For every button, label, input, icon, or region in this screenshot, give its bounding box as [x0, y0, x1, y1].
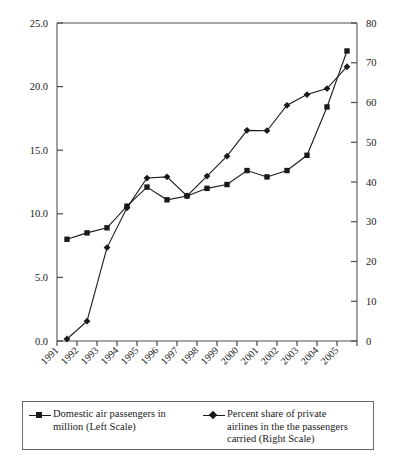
data-point-marker: [324, 104, 329, 109]
left-axis-tick-label: 10.0: [30, 208, 48, 219]
data-series-layer: [64, 48, 351, 342]
x-axis-tick-label: 1997: [158, 345, 180, 367]
data-point-marker: [104, 244, 111, 251]
data-point-marker: [144, 175, 151, 182]
legend-line-1: Domestic air passengers in: [53, 408, 166, 419]
x-axis-tick-label: 1991: [38, 345, 60, 367]
data-point-marker: [264, 174, 269, 179]
right-axis-tick-label: 10: [366, 296, 377, 307]
chart-plot-area: 0.05.010.015.020.025.0 01020304050607080…: [0, 0, 399, 400]
right-axis-tick-label: 70: [366, 57, 377, 68]
series-1-square: [64, 48, 349, 242]
left-axis-tick-label: 0.0: [35, 336, 48, 347]
x-axis-tick-label: 2002: [258, 345, 280, 367]
legend-label-domestic-passengers: Domestic air passengers in million (Left…: [53, 408, 166, 433]
x-axis-tick-label: 2004: [298, 345, 320, 367]
left-axis-tick-label: 25.0: [30, 18, 48, 29]
x-axis-tick-label: 1992: [58, 345, 80, 367]
right-axis-tick-label: 0: [366, 336, 371, 347]
legend-line-2: airlines in the the passengers: [227, 421, 348, 432]
left-axis-tick-label: 5.0: [35, 272, 48, 283]
data-point-marker: [204, 186, 209, 191]
data-point-marker: [224, 182, 229, 187]
right-axis-ticks: 01020304050607080: [351, 18, 377, 347]
legend-line-3: carried (Right Scale): [227, 433, 314, 444]
legend-line-2: million (Left Scale): [53, 421, 136, 432]
series-line: [67, 51, 347, 239]
left-axis-ticks: 0.05.010.015.020.025.0: [30, 18, 63, 347]
legend-marker-square-icon: [29, 409, 53, 422]
data-point-marker: [304, 153, 309, 158]
data-point-marker: [144, 184, 149, 189]
x-axis-tick-label: 2003: [278, 345, 300, 367]
legend-label-private-share: Percent share of private airlines in the…: [227, 408, 348, 446]
x-axis-tick-label: 1998: [178, 345, 200, 367]
x-axis-tick-label: 1999: [198, 345, 220, 367]
series-line: [67, 67, 347, 339]
x-axis-tick-label: 2001: [238, 345, 260, 367]
x-axis-tick-label: 1996: [138, 345, 160, 367]
right-axis-tick-label: 60: [366, 97, 377, 108]
data-point-marker: [244, 168, 249, 173]
x-axis-tick-label: 1995: [118, 345, 140, 367]
data-point-marker: [84, 230, 89, 235]
chart-legend: Domestic air passengers in million (Left…: [22, 401, 374, 450]
right-axis-tick-label: 50: [366, 137, 377, 148]
left-axis-tick-label: 20.0: [30, 81, 48, 92]
right-axis-tick-label: 20: [366, 256, 377, 267]
series-2-diamond: [64, 63, 351, 342]
right-axis-tick-label: 40: [366, 177, 377, 188]
data-point-marker: [304, 91, 311, 98]
x-axis-tick-label: 2000: [218, 345, 240, 367]
right-axis-tick-label: 30: [366, 216, 377, 227]
left-axis-tick-label: 15.0: [30, 145, 48, 156]
data-point-marker: [284, 168, 289, 173]
legend-entry-domestic-passengers: Domestic air passengers in million (Left…: [29, 408, 194, 433]
data-point-marker: [104, 225, 109, 230]
axes-frame: [57, 23, 357, 341]
data-point-marker: [64, 237, 69, 242]
x-axis-tick-label: 1993: [78, 345, 100, 367]
right-axis-tick-label: 80: [366, 18, 377, 29]
legend-entry-private-share: Percent share of private airlines in the…: [203, 408, 371, 446]
x-axis-tick-labels: 1991199219931994199519961997199819992000…: [38, 345, 340, 367]
x-axis-tick-label: 2005: [318, 345, 340, 367]
chart-figure: 0.05.010.015.020.025.0 01020304050607080…: [0, 0, 399, 469]
legend-line-1: Percent share of private: [227, 408, 326, 419]
data-point-marker: [344, 48, 349, 53]
x-axis-tick-label: 1994: [98, 345, 120, 367]
data-point-marker: [164, 197, 169, 202]
legend-marker-diamond-icon: [203, 409, 227, 422]
